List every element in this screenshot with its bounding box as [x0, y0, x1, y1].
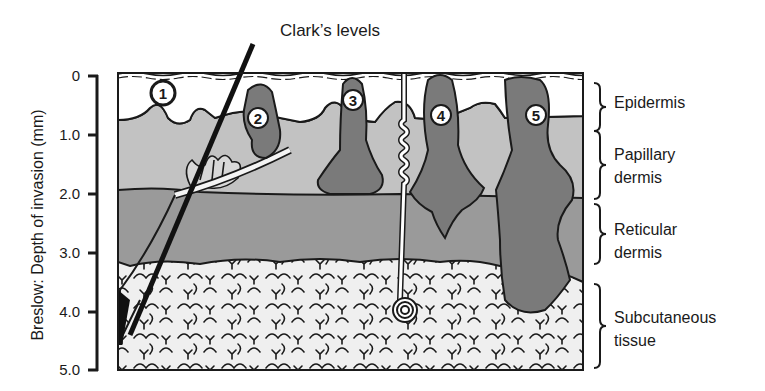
level-marker-1: 1 [151, 81, 175, 105]
level-marker-2: 2 [248, 108, 268, 128]
level-marker-3: 3 [343, 90, 363, 110]
tick-label-5: 5.0 [59, 361, 80, 378]
clark-breslow-diagram: Clark’s levels Breslow: Depth of invasio… [0, 0, 765, 391]
layer-braces [594, 83, 606, 368]
svg-text:3: 3 [349, 92, 357, 109]
label-epidermis: Epidermis [614, 94, 685, 111]
svg-text:1: 1 [159, 85, 167, 102]
label-papillary-2: dermis [614, 169, 662, 186]
svg-text:4: 4 [437, 107, 446, 124]
level-marker-5: 5 [526, 105, 546, 125]
label-papillary-1: Papillary [614, 146, 675, 163]
svg-text:2: 2 [254, 110, 262, 127]
label-reticular-1: Reticular [614, 221, 678, 238]
label-subcutaneous-2: tissue [614, 332, 656, 349]
tick-label-1: 1.0 [59, 126, 80, 143]
tick-label-3: 3.0 [59, 244, 80, 261]
brace-reticular [594, 204, 606, 264]
level-marker-4: 4 [431, 105, 451, 125]
axis-title: Breslow: Depth of invasion (mm) [29, 109, 46, 340]
brace-epidermis [594, 83, 606, 131]
depth-axis [88, 75, 98, 371]
tick-label-4: 4.0 [59, 303, 80, 320]
brace-papillary [594, 131, 606, 199]
diagram-title: Clark’s levels [280, 21, 380, 40]
svg-text:5: 5 [532, 107, 540, 124]
tick-label-0: 0 [72, 67, 80, 84]
label-subcutaneous-1: Subcutaneous [614, 309, 716, 326]
tick-label-2: 2.0 [59, 185, 80, 202]
brace-subcutaneous [594, 284, 606, 368]
label-reticular-2: dermis [614, 244, 662, 261]
